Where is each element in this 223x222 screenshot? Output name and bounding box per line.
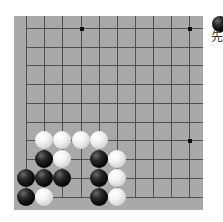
grid-line-vertical	[153, 16, 154, 198]
white-stone[interactable]	[72, 131, 90, 149]
grid-line-vertical	[171, 16, 172, 198]
black-stone[interactable]	[90, 188, 108, 206]
grid-line-horizontal	[26, 103, 203, 104]
grid-line-horizontal	[26, 84, 203, 85]
white-stone[interactable]	[108, 188, 126, 206]
black-stone[interactable]	[53, 169, 71, 187]
star-point-icon	[188, 27, 192, 31]
star-point-icon	[80, 27, 84, 31]
white-stone[interactable]	[108, 150, 126, 168]
black-stone[interactable]	[17, 188, 35, 206]
grid-line-vertical	[189, 16, 190, 198]
black-stone[interactable]	[17, 169, 35, 187]
black-stone[interactable]	[35, 150, 53, 168]
grid-line-vertical	[135, 16, 136, 198]
grid-line-horizontal	[26, 47, 203, 48]
grid-line-horizontal	[26, 122, 203, 123]
white-stone[interactable]	[90, 131, 108, 149]
star-point-icon	[188, 139, 192, 143]
black-stone[interactable]	[90, 150, 108, 168]
white-stone[interactable]	[35, 131, 53, 149]
go-board[interactable]	[14, 16, 203, 210]
black-stone[interactable]	[90, 169, 108, 187]
grid-line-horizontal	[26, 28, 203, 29]
white-stone[interactable]	[53, 131, 71, 149]
white-stone[interactable]	[35, 188, 53, 206]
white-stone[interactable]	[53, 150, 71, 168]
grid-line-vertical	[81, 16, 82, 198]
grid-line-horizontal	[26, 65, 203, 66]
white-stone[interactable]	[108, 169, 126, 187]
to-move-label: 先	[211, 30, 223, 44]
black-stone[interactable]	[35, 169, 53, 187]
